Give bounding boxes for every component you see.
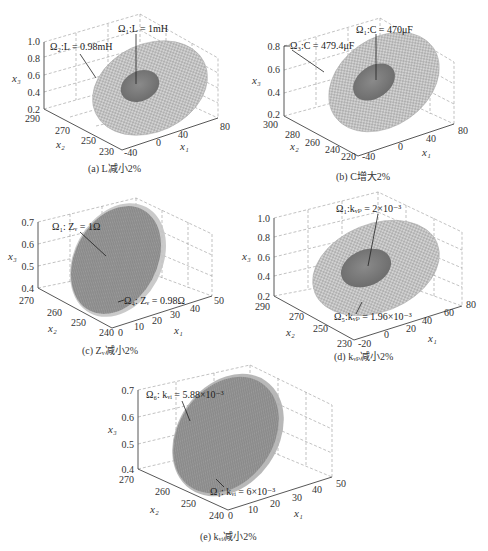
svg-text:0.4: 0.4	[22, 283, 35, 294]
svg-text:260: 260	[305, 137, 320, 148]
svg-text:260: 260	[155, 486, 170, 497]
annotation-omega1: Ω₁:kᵥₚ = 2×10⁻³	[336, 203, 401, 214]
svg-text:80: 80	[220, 121, 230, 132]
svg-text:1.0: 1.0	[28, 36, 41, 47]
svg-text:x₁: x₁	[173, 324, 183, 336]
svg-text:250: 250	[181, 498, 196, 509]
z-ticks: 0.7 0.6 0.5 0.4	[22, 217, 35, 294]
svg-text:0: 0	[118, 327, 123, 338]
svg-text:260: 260	[47, 307, 62, 318]
svg-text:40: 40	[312, 484, 322, 495]
svg-text:x₂: x₂	[285, 326, 295, 338]
svg-text:0: 0	[156, 137, 161, 148]
annotation-omega5: Ω₅:kᵥₚ = 1.96×10⁻³	[334, 311, 412, 322]
svg-text:-40: -40	[362, 151, 375, 162]
panel-a: 1.0 0.8 0.6 0.4 0.2 x₃ 290 270 250 230 x…	[0, 0, 244, 190]
svg-text:290: 290	[255, 301, 270, 312]
annotation-omega1: Ω₁: Zᵥ = 1Ω	[52, 221, 100, 232]
svg-text:280: 280	[285, 129, 300, 140]
svg-text:0.8: 0.8	[268, 41, 281, 52]
svg-text:240: 240	[209, 510, 224, 521]
caption-e: (e) kᵥᵢ减小2%	[200, 528, 257, 543]
caption-a: (a) L减小2%	[88, 160, 141, 175]
annotation-omega2: Ω₂:L = 0.98mH	[50, 41, 113, 52]
svg-text:0.6: 0.6	[258, 252, 271, 263]
caption-d: (d) kᵥₚ减小2%	[334, 348, 393, 363]
svg-text:30: 30	[292, 492, 302, 503]
svg-text:0.7: 0.7	[22, 217, 35, 228]
svg-text:x₁: x₁	[421, 146, 431, 158]
svg-text:x₁: x₁	[293, 507, 303, 519]
svg-text:40: 40	[178, 129, 188, 140]
svg-text:240: 240	[325, 144, 340, 155]
svg-text:0.6: 0.6	[122, 412, 135, 423]
panel-e: 0.7 0.6 0.5 0.4 x₃ 270 260 250 240 x₂ 0 …	[100, 365, 380, 551]
z-ticks: 1.0 0.8 0.6 0.4 0.2	[258, 213, 271, 302]
svg-text:230: 230	[99, 146, 114, 157]
svg-text:0.6: 0.6	[268, 64, 281, 75]
svg-text:30: 30	[170, 309, 180, 320]
svg-text:0.7: 0.7	[122, 385, 135, 396]
svg-text:240: 240	[99, 327, 114, 338]
svg-text:x₂: x₂	[289, 140, 299, 152]
svg-text:270: 270	[289, 311, 304, 322]
y-ticks: 300 280 260 240 220	[263, 119, 356, 162]
svg-text:0.8: 0.8	[28, 53, 41, 64]
svg-text:0.8: 0.8	[258, 232, 271, 243]
svg-text:x₁: x₁	[427, 332, 437, 344]
svg-text:x₂: x₂	[47, 322, 57, 334]
z-ticks: 1.0 0.8 0.6 0.4 0.2	[28, 36, 41, 115]
svg-text:x₃: x₃	[241, 250, 251, 262]
annotation-omega1: Ω₁:C = 470μF	[356, 24, 413, 35]
annotation-omega6: Ω₆: kᵥᵢ = 5.88×10⁻³	[146, 389, 224, 400]
svg-text:0.4: 0.4	[258, 271, 271, 282]
svg-text:270: 270	[19, 295, 34, 306]
svg-text:x₁: x₁	[179, 140, 189, 152]
svg-text:290: 290	[25, 113, 40, 124]
svg-text:80: 80	[466, 299, 476, 310]
svg-text:300: 300	[263, 119, 278, 130]
svg-text:20: 20	[152, 315, 162, 326]
svg-text:40: 40	[426, 133, 436, 144]
annotation-omega1: Ω₁: kᵥᵢ = 6×10⁻³	[210, 486, 275, 497]
panel-c: 0.7 0.6 0.5 0.4 x₃ 270 260 250 240 x₂ 0 …	[0, 190, 244, 365]
svg-text:0.6: 0.6	[28, 70, 41, 81]
svg-text:40: 40	[422, 315, 432, 326]
svg-text:270: 270	[55, 125, 70, 136]
annotation-omega4: Ω₄: Zᵥ = 0.98Ω	[124, 295, 185, 306]
svg-text:20: 20	[406, 323, 416, 334]
svg-text:40: 40	[190, 303, 200, 314]
panel-d: 1.0 0.8 0.6 0.4 0.2 x₃ 290 270 250 230 x…	[244, 190, 488, 365]
caption-c: (c) Zᵥ减小2%	[82, 342, 138, 357]
svg-text:0: 0	[384, 329, 389, 340]
svg-text:0: 0	[398, 141, 403, 152]
z-ticks: 0.7 0.6 0.5 0.4	[122, 385, 135, 475]
svg-text:10: 10	[248, 504, 258, 515]
annotation-omega1: Ω₁:L = 1mH	[118, 23, 168, 34]
svg-text:250: 250	[313, 323, 328, 334]
z-ticks: 0.8 0.6 0.4 0.2	[268, 41, 281, 120]
plot-e: 0.7 0.6 0.5 0.4 x₃ 270 260 250 240 x₂ 0 …	[100, 365, 380, 551]
plot-d: 1.0 0.8 0.6 0.4 0.2 x₃ 290 270 250 230 x…	[244, 190, 488, 365]
svg-text:0.4: 0.4	[268, 87, 281, 98]
svg-text:250: 250	[81, 135, 96, 146]
svg-text:0.4: 0.4	[28, 87, 41, 98]
svg-text:0.5: 0.5	[122, 439, 135, 450]
annotation-omega3: Ω₃:C = 479.4μF	[290, 40, 355, 51]
svg-text:20: 20	[270, 498, 280, 509]
svg-text:x₂: x₂	[55, 138, 65, 150]
svg-text:60: 60	[444, 307, 454, 318]
svg-text:0: 0	[228, 510, 233, 521]
caption-b: (b) C增大2%	[336, 168, 390, 183]
svg-text:270: 270	[119, 474, 134, 485]
svg-text:50: 50	[336, 478, 346, 489]
svg-text:10: 10	[134, 321, 144, 332]
svg-text:220: 220	[341, 151, 356, 162]
svg-text:50: 50	[214, 295, 224, 306]
svg-text:0.5: 0.5	[22, 261, 35, 272]
svg-text:-40: -40	[124, 147, 137, 158]
svg-text:x₃: x₃	[7, 250, 17, 262]
svg-text:x₃: x₃	[107, 423, 117, 435]
svg-text:80: 80	[458, 125, 468, 136]
svg-text:x₃: x₃	[11, 72, 21, 84]
